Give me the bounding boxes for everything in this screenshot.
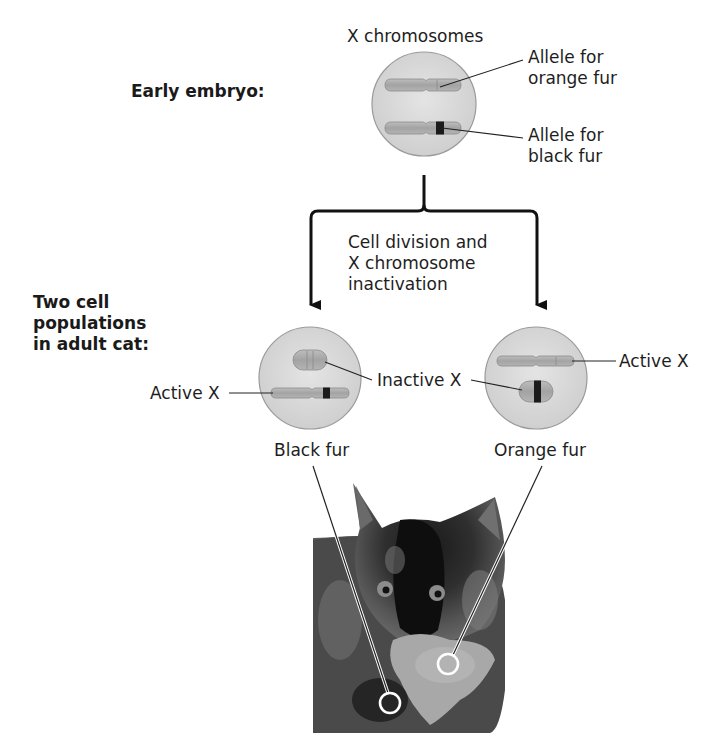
orange-fur-label: Orange fur — [494, 440, 586, 461]
orange-fur-cell — [471, 327, 616, 429]
x-chromosomes-title: X chromosomes — [347, 26, 483, 47]
process-label: Cell division and X chromosome inactivat… — [348, 232, 488, 295]
black-fur-label: Black fur — [274, 440, 349, 461]
early-embryo-cell — [372, 52, 523, 156]
active-x-chromosome — [271, 388, 349, 399]
active-x-chromosome — [497, 356, 574, 366]
diagram-graphics — [0, 0, 719, 753]
allele-black-label: Allele for black fur — [528, 125, 604, 167]
x-chromosome-orange-allele — [385, 79, 461, 91]
left-active-x-label: Active X — [150, 383, 220, 404]
inactive-x-chromosome — [519, 381, 553, 403]
black-fur-cell — [229, 327, 372, 429]
right-active-x-label: Active X — [619, 351, 689, 372]
inactive-x-chromosome — [293, 350, 327, 370]
x-chromosome-black-allele — [385, 122, 461, 135]
inactive-x-label: Inactive X — [377, 370, 462, 391]
x-inactivation-diagram: Early embryo: Two cell populations in ad… — [0, 0, 719, 753]
stage-label-early-embryo: Early embryo: — [131, 81, 265, 102]
allele-orange-label: Allele for orange fur — [528, 47, 617, 89]
stage-label-adult-cat: Two cell populations in adult cat: — [33, 292, 149, 355]
